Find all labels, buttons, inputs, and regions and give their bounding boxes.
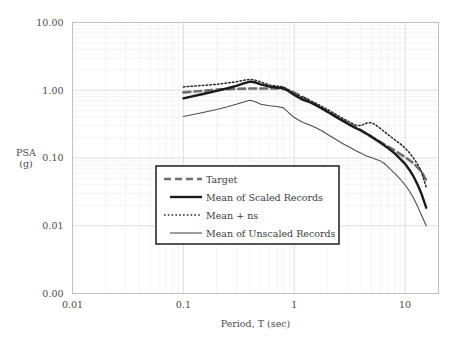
chart-legend: TargetMean of Scaled RecordsMean + nsMea… <box>156 166 339 244</box>
x-tick-label: 0.1 <box>176 299 191 310</box>
legend-label: Mean of Unscaled Records <box>206 228 336 239</box>
y-axis-title-line2: (g) <box>19 158 33 169</box>
x-tick-label: 1 <box>291 299 297 310</box>
y-tick-label: 1.00 <box>42 85 63 96</box>
chart-container: 0.010.1110 10.001.000.100.010.00 Period,… <box>0 0 451 351</box>
y-axis-title-line1: PSA <box>16 147 36 158</box>
y-tick-label: 0.00 <box>42 288 63 299</box>
x-tick-label: 0.01 <box>62 299 83 310</box>
psa-period-chart: 0.010.1110 10.001.000.100.010.00 Period,… <box>0 0 451 351</box>
legend-label: Mean + ns <box>206 210 258 221</box>
legend-label: Target <box>206 174 238 185</box>
y-tick-label: 0.10 <box>42 152 63 163</box>
legend-label: Mean of Scaled Records <box>206 192 323 203</box>
x-axis-title: Period, T (sec) <box>221 318 291 329</box>
y-tick-label: 10.00 <box>36 17 63 28</box>
y-tick-label: 0.01 <box>42 220 63 231</box>
x-tick-label: 10 <box>399 299 411 310</box>
